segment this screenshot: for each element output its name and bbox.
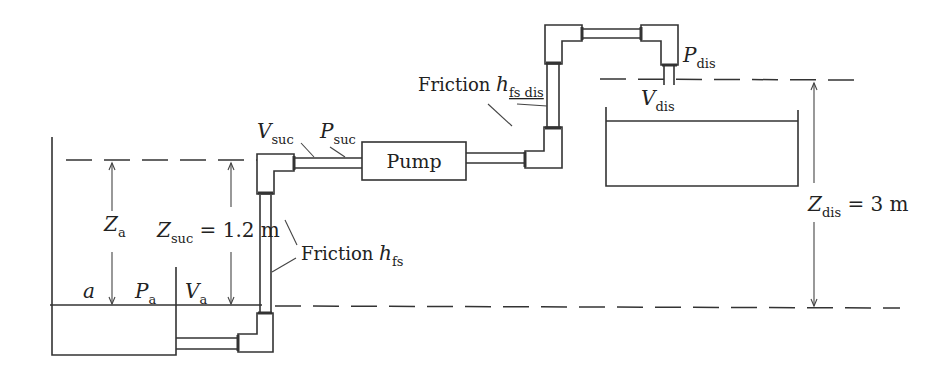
datum-line <box>275 306 900 308</box>
p-suc-label: Psuc <box>319 119 356 147</box>
discharge-riser-pipe <box>547 64 559 127</box>
discharge-pipe-from-pump <box>466 153 525 163</box>
source-tank <box>50 137 262 355</box>
discharge-outlet <box>664 65 674 85</box>
v-a-label: Va <box>185 279 207 307</box>
discharge-lower-elbow <box>525 127 562 168</box>
z-dis-label: Zdis = 3 m <box>807 192 909 220</box>
destination-tank <box>606 107 798 186</box>
suction-pipe-to-pump <box>294 158 362 168</box>
p-a-label: Pa <box>134 279 156 307</box>
discharge-top-pipe <box>582 29 641 38</box>
pump-label: Pump <box>386 150 441 172</box>
friction-discharge-label: Friction hfs dis <box>418 72 544 100</box>
v-suc-label: Vsuc <box>257 119 294 147</box>
upper-suction-elbow <box>257 154 294 194</box>
suction-riser-pipe <box>260 195 271 313</box>
friction-suction-label: Friction hfs <box>301 241 403 269</box>
suction-bottom-pipe <box>176 338 238 349</box>
p-dis-label: Pdis <box>682 43 716 71</box>
v-dis-label: Vdis <box>641 86 675 114</box>
pump-system-diagram: Pump <box>0 0 941 389</box>
discharge-top-right-elbow <box>641 25 678 65</box>
z-a-label: Za <box>103 212 126 240</box>
point-a-label: a <box>83 279 95 303</box>
discharge-level-line <box>600 79 860 80</box>
discharge-top-left-elbow <box>545 25 582 64</box>
z-suc-label: Zsuc = 1.2 m <box>156 218 280 246</box>
lower-elbow <box>238 313 273 352</box>
